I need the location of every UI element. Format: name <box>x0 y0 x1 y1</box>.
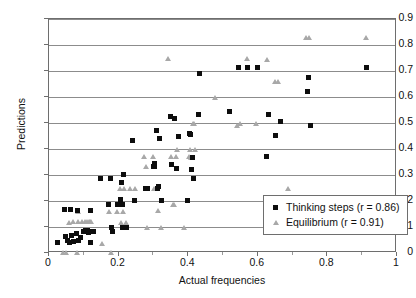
chart-legend: Thinking steps (r = 0.86) Equilibrium (r… <box>263 195 408 235</box>
data-point-thinking-steps <box>69 233 74 238</box>
data-point-equilibrium <box>186 154 192 159</box>
data-point-thinking-steps <box>88 240 93 245</box>
data-point-thinking-steps <box>157 136 162 141</box>
data-point-equilibrium <box>79 219 85 224</box>
data-point-equilibrium <box>306 35 312 40</box>
legend-label-equilibrium: Equilibrium (r = 0.91) <box>286 216 384 228</box>
x-axis-minor-tick-mark <box>83 252 84 255</box>
x-axis-title: Actual frequencies <box>48 274 396 286</box>
x-axis-tick-label: 1 <box>376 256 416 268</box>
gridline <box>49 71 395 72</box>
data-point-thinking-steps <box>91 229 96 234</box>
data-point-thinking-steps <box>174 166 179 171</box>
data-point-thinking-steps <box>90 229 95 234</box>
data-point-thinking-steps <box>78 235 83 240</box>
data-point-thinking-steps <box>88 208 93 213</box>
data-point-thinking-steps <box>62 207 67 212</box>
x-axis-tick-label: 0.2 <box>98 256 138 268</box>
data-point-thinking-steps <box>152 164 157 169</box>
data-point-equilibrium <box>121 186 127 191</box>
data-point-thinking-steps <box>190 155 195 160</box>
data-point-equilibrium <box>87 219 93 224</box>
gridline <box>49 97 395 98</box>
x-axis-tick-mark <box>48 252 49 256</box>
gridline <box>49 19 395 20</box>
x-axis-tick-label: 0.4 <box>167 256 207 268</box>
x-axis-tick-mark <box>187 252 188 256</box>
x-axis-tick-mark <box>257 252 258 256</box>
data-point-thinking-steps <box>169 162 174 167</box>
data-point-thinking-steps <box>364 65 369 70</box>
data-point-equilibrium <box>264 57 270 62</box>
data-point-thinking-steps <box>227 109 232 114</box>
data-point-equilibrium <box>127 186 133 191</box>
data-point-thinking-steps <box>306 75 311 80</box>
gridline <box>49 45 395 46</box>
data-point-equilibrium <box>285 186 291 191</box>
data-point-equilibrium <box>155 208 161 213</box>
data-point-equilibrium <box>151 186 157 191</box>
data-point-equilibrium <box>60 250 66 255</box>
data-point-thinking-steps <box>106 202 111 207</box>
x-axis-minor-tick-mark <box>292 252 293 255</box>
data-point-thinking-steps <box>71 239 76 244</box>
data-point-thinking-steps <box>191 176 196 181</box>
gridline <box>49 175 395 176</box>
data-point-thinking-steps <box>115 202 120 207</box>
data-point-thinking-steps <box>108 176 113 181</box>
data-point-thinking-steps <box>172 116 177 121</box>
data-point-equilibrium <box>303 35 309 40</box>
data-point-thinking-steps <box>264 154 269 159</box>
triangle-marker-icon <box>270 220 281 225</box>
data-point-thinking-steps <box>176 134 181 139</box>
data-point-thinking-steps <box>145 186 150 191</box>
data-point-thinking-steps <box>154 128 159 133</box>
data-point-thinking-steps <box>98 176 103 181</box>
data-point-thinking-steps <box>156 184 161 189</box>
gridline <box>49 149 395 150</box>
data-point-thinking-steps <box>255 65 260 70</box>
data-point-thinking-steps <box>81 229 86 234</box>
gridline <box>49 123 395 124</box>
data-point-equilibrium <box>63 250 69 255</box>
x-axis-minor-tick-mark <box>222 252 223 255</box>
data-point-equilibrium <box>170 202 176 207</box>
square-marker-icon <box>270 205 281 210</box>
data-point-thinking-steps <box>273 133 278 138</box>
data-point-thinking-steps <box>65 238 70 243</box>
data-point-thinking-steps <box>68 207 73 212</box>
x-axis-tick-mark <box>326 252 327 256</box>
y-axis-title: Predictions <box>15 69 27 179</box>
data-point-thinking-steps <box>55 240 60 245</box>
data-point-equilibrium <box>86 219 92 224</box>
data-point-equilibrium <box>143 164 149 169</box>
data-point-thinking-steps <box>86 230 91 235</box>
data-point-thinking-steps <box>245 65 250 70</box>
data-point-thinking-steps <box>152 161 157 166</box>
data-point-equilibrium <box>70 219 76 224</box>
x-axis-tick-mark <box>396 252 397 256</box>
data-point-thinking-steps <box>110 229 115 234</box>
data-point-thinking-steps <box>119 180 124 185</box>
data-point-equilibrium <box>66 220 72 225</box>
data-point-thinking-steps <box>189 167 194 172</box>
data-point-equilibrium <box>75 209 81 214</box>
data-point-thinking-steps <box>76 238 81 243</box>
data-point-equilibrium <box>75 219 81 224</box>
data-point-equilibrium <box>275 79 281 84</box>
data-point-thinking-steps <box>236 65 241 70</box>
data-point-equilibrium <box>108 250 114 255</box>
data-point-thinking-steps <box>266 112 271 117</box>
data-point-thinking-steps <box>85 228 90 233</box>
data-point-thinking-steps <box>63 234 68 239</box>
data-point-equilibrium <box>141 154 147 159</box>
data-point-equilibrium <box>123 220 129 225</box>
data-point-equilibrium <box>99 241 105 246</box>
data-point-equilibrium <box>88 219 94 224</box>
data-point-equilibrium <box>150 154 156 159</box>
legend-item-equilibrium: Equilibrium (r = 0.91) <box>270 215 400 230</box>
legend-item-thinking-steps: Thinking steps (r = 0.86) <box>270 200 400 215</box>
data-point-equilibrium <box>363 35 369 40</box>
data-point-equilibrium <box>74 250 80 255</box>
